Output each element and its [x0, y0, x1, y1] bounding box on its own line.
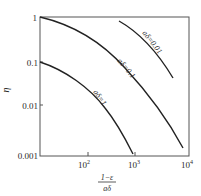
y-tick-1: 1: [33, 13, 38, 23]
x-axis: 102 103 104 1−ε aδ: [78, 152, 193, 193]
x-axis-title-numerator: 1−ε: [101, 173, 114, 182]
y-axis-title: η: [0, 87, 11, 92]
x-tick-1000: 103: [128, 159, 140, 170]
y-tick-0.1: 0.1: [27, 58, 38, 68]
eta-vs-x-chart: 1 0.1 0.01 0.001 η 102 103 104 1−ε aδ aδ…: [0, 0, 201, 196]
label-a-delta-1: aδ=1: [91, 88, 108, 107]
x-tick-10000: 104: [181, 159, 193, 170]
y-tick-0.01: 0.01: [22, 101, 38, 111]
curve-a-delta-0.1: [40, 17, 183, 148]
plot-frame: [40, 17, 189, 156]
y-tick-0.001: 0.001: [18, 151, 38, 161]
y-axis: 1 0.1 0.01 0.001 η: [0, 13, 43, 161]
x-tick-100: 102: [78, 159, 90, 170]
x-axis-title-denominator: aδ: [103, 184, 111, 193]
curve-a-delta-1: [40, 62, 133, 154]
label-a-delta-0.1: aδ=0.1: [115, 57, 137, 80]
label-a-delta-0.01: aδ=0.01: [140, 29, 164, 56]
